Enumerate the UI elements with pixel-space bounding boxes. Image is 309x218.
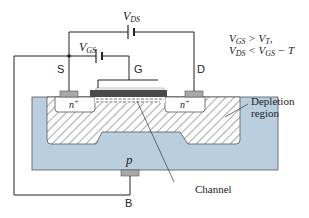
drain-n-plus-label: n+ [180,98,190,110]
channel-label: Channel [195,183,232,195]
source-terminal-label: S [57,63,64,75]
body-terminal-label: B [125,197,132,209]
source-contact [60,91,78,97]
vgs-label: VGS [79,40,96,55]
gate-oxide [96,88,164,90]
depletion-region-label-line1: Depletion [251,95,294,107]
vds-label: VDS [123,9,140,24]
p-substrate-label: p [126,152,133,168]
depletion-region-label-line2: region [251,107,279,119]
gate-electrode [90,90,167,97]
body-contact [121,170,139,176]
drain-terminal-label: D [197,63,205,75]
drain-contact [185,91,203,97]
source-n-plus-label: n+ [69,98,79,110]
condition-line-2: VDS < VGS − T [229,44,294,58]
gate-terminal-label: G [134,63,143,75]
source-node-dot [67,54,71,58]
